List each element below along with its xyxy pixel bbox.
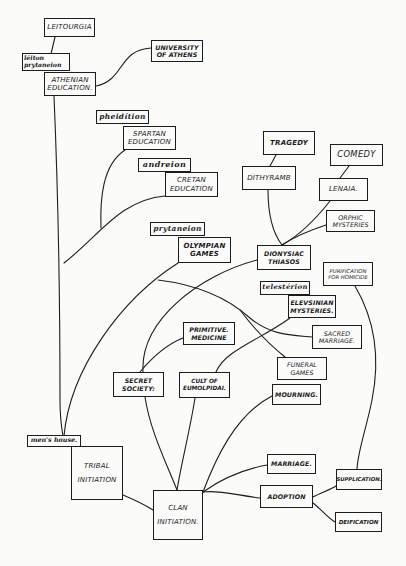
node-andreion: andreion <box>138 158 191 172</box>
node-prytaneion: prytaneion <box>150 222 205 236</box>
node-deification: DEIFICATION <box>335 512 382 532</box>
node-tribal-initiation: TRIBAL INITIATION <box>71 446 123 500</box>
node-cult-of-eumolpidai: CULT OF EUMOLPIDAI. <box>179 372 230 398</box>
node-athenian-education: ATHENIAN EDUCATION. <box>44 72 96 96</box>
node-olympian-games: OLYMPIAN GAMES <box>178 237 231 263</box>
node-mourning: MOURNING. <box>272 384 321 405</box>
node-tragedy: TRAGEDY <box>263 131 315 155</box>
node-cretan-education: CRETAN EDUCATION <box>165 172 218 197</box>
node-leitourgia: LEITOURGIA <box>44 18 95 37</box>
node-marriage: MARRIAGE. <box>267 454 316 474</box>
node-telesterion: telestérion <box>260 281 310 295</box>
node-university-of-athens: UNIVERSITY OF ATHENS <box>151 40 203 62</box>
node-elevsinian-mysteries: ELEVSINIAN MYSTERIES. <box>288 295 336 318</box>
node-purification-for-homicide: PURIFICATION FOR HOMICIDE <box>323 262 373 286</box>
node-dionysiac-thiasos: DIONYSIAC THIASOS <box>257 245 311 270</box>
node-leiton-prytaneion: léiton prytaneion <box>22 53 70 71</box>
node-primitive-medicine: PRIMITIVE. MEDICINE <box>183 322 235 345</box>
node-orphic-mysteries: ORPHIC MYSTERIES <box>326 210 375 232</box>
node-secret-society: SECRET SOCIETY: <box>113 372 164 397</box>
node-supplication: SUPPLICATION. <box>336 469 382 490</box>
node-sacred-marriage: SACRED MARRIAGE. <box>312 325 362 349</box>
node-adoption: ADOPTION <box>260 485 313 508</box>
node-funeral-games: FUNERAL GAMES <box>277 357 327 380</box>
node-dithyramb: DITHYRAMB <box>242 166 296 190</box>
node-spartan-education: SPARTAN EDUCATION <box>123 126 176 150</box>
node-comedy: COMEDY <box>330 144 383 166</box>
node-lenaia: LENAIA. <box>319 178 368 201</box>
node-pheiditon: pheidítion <box>96 110 149 124</box>
node-clan-initiation: CLAN INITIATION. <box>153 490 203 540</box>
diagram-canvas: LEITOURGIA léiton prytaneion ATHENIAN ED… <box>0 0 406 566</box>
